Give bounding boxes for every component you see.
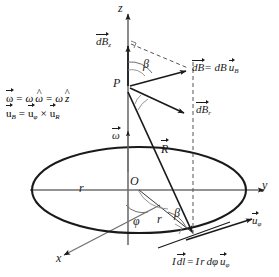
u-phi-term: u	[28, 107, 34, 119]
omega-vector-label: ω	[112, 130, 120, 141]
ce-r: r	[200, 255, 204, 267]
diagram-geometry	[0, 0, 279, 277]
omega-scalar-2: ω	[55, 92, 63, 104]
ce-equals: =	[187, 255, 193, 267]
dBr-label: dBr	[196, 104, 211, 115]
ce-u-phi: u	[220, 256, 226, 267]
cross-product-symbol: ×	[40, 107, 46, 119]
dBr-vector-label: dB	[196, 104, 208, 115]
eq2-equals: =	[19, 107, 25, 119]
physics-diagram: z y x O P dBz dB= dBuB dBr R ω β β φ r r…	[0, 0, 279, 277]
ce-u-phi-subscript: φ	[226, 261, 230, 269]
omega-definition: ω=ω^ω=ω^z	[6, 92, 69, 104]
eq1-equals-1: =	[16, 92, 22, 104]
dl-vector-label: dl	[177, 256, 186, 267]
current-element-tangent	[158, 222, 230, 248]
dB-equation: dB= dBuB	[192, 62, 238, 73]
phi-label: φ	[133, 215, 140, 227]
uB-definition: uB=uφ×uR	[6, 107, 69, 119]
current-element-equation: Idl=Irdφuφ	[172, 256, 229, 267]
ce-dphi: dφ	[206, 255, 218, 267]
radius-inner-label: r	[157, 213, 162, 225]
u-phi-label: uφ	[252, 215, 261, 226]
current-I: I	[172, 255, 176, 267]
point-P-label: P	[113, 77, 120, 89]
current-I-2: I	[195, 255, 199, 267]
dBz-vector-label: dB	[96, 36, 108, 47]
beta-bottom-label: β	[174, 207, 180, 219]
angle-arc-P-lower2	[138, 99, 148, 110]
u-B-subscript: B	[234, 67, 238, 75]
R-vector-label: R	[161, 143, 168, 155]
u-R-term-subscript: R	[55, 113, 59, 121]
omega-scalar: ω	[25, 92, 33, 104]
R-label: R	[161, 143, 168, 155]
dBz-label: dBz	[96, 36, 111, 47]
z-axis-label: z	[118, 2, 123, 14]
u-phi-vector	[186, 219, 252, 240]
omega-hat: ^ω	[35, 92, 43, 104]
x-axis-label: x	[56, 252, 61, 264]
u-phi-subscript: φ	[258, 220, 262, 228]
omega-axis-label: ω	[112, 130, 120, 141]
dBr-subscript: r	[208, 109, 211, 117]
origin-label: O	[130, 175, 139, 187]
phi-arc	[126, 205, 148, 213]
vector-definitions: ω=ω^ω=ω^z uB=uφ×uR	[6, 92, 69, 122]
uB-vector-lhs: u	[6, 107, 12, 119]
z-hat: ^z	[65, 92, 69, 104]
u-phi-term-subscript: φ	[34, 113, 38, 121]
beta-top-label: β	[143, 58, 149, 70]
uB-lhs-subscript: B	[12, 113, 16, 121]
angle-arc-P-lower	[135, 95, 141, 104]
radius-left-label: r	[79, 182, 84, 194]
dB-vector	[130, 71, 186, 86]
omega-vector-lhs: ω	[6, 92, 13, 104]
dBz-subscript: z	[108, 41, 111, 49]
eq1-equals-2: =	[46, 92, 52, 104]
y-axis-label: y	[262, 179, 267, 191]
dB-vector-label: dB	[192, 62, 204, 73]
dB-eq-mid: = dB	[204, 61, 226, 73]
dashed-dBz-to-dB	[131, 44, 188, 68]
u-phi-vector-label: u	[252, 215, 258, 226]
